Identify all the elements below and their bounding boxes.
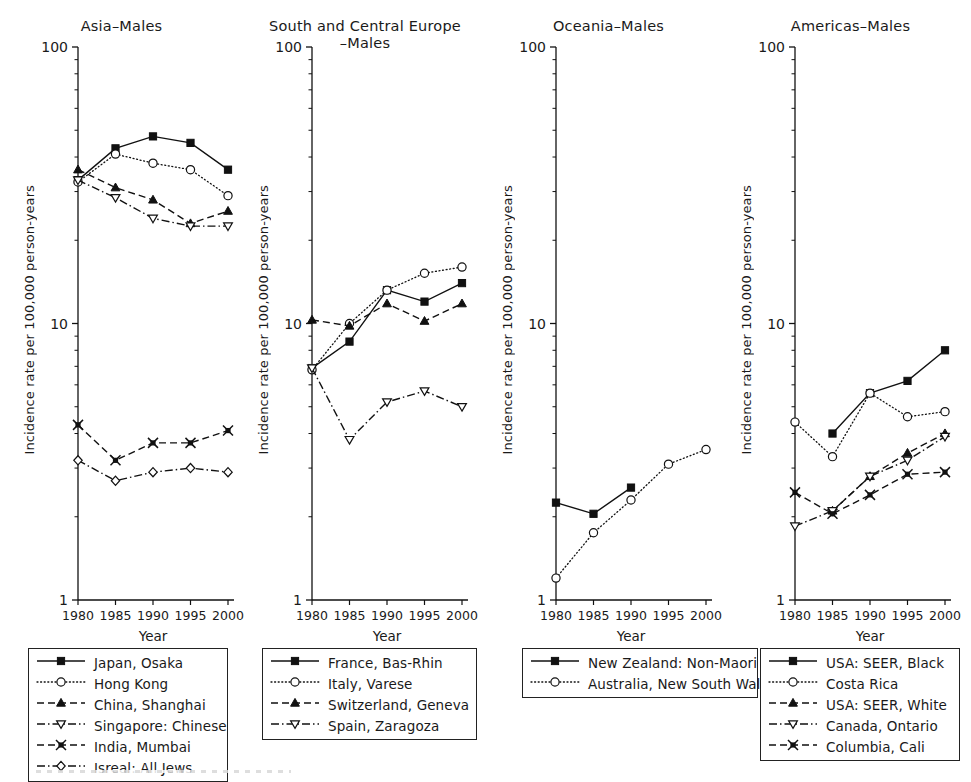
data-point-marker <box>865 490 875 500</box>
legend-label: USA: SEER, Black <box>826 655 944 671</box>
legend-key-sample <box>767 695 819 711</box>
data-point-marker <box>664 460 672 468</box>
y-tick-label: 10 <box>50 316 68 332</box>
data-point-marker <box>111 195 120 203</box>
x-tick-label: 1985 <box>817 608 849 623</box>
legend-label: France, Bas-Rhin <box>328 655 443 671</box>
x-tick-label: 1980 <box>779 608 811 623</box>
series-line <box>833 434 946 511</box>
x-tick-label: 1985 <box>100 608 132 623</box>
legend-item[interactable]: Japan, Osaka <box>29 652 227 673</box>
legend-item[interactable]: Australia, New South Wales <box>523 673 757 694</box>
series-line <box>795 393 945 457</box>
legend-marker-icon <box>35 674 87 694</box>
data-point-marker <box>791 418 799 426</box>
legend-marker-icon <box>35 695 87 715</box>
x-tick-label: 1980 <box>296 608 328 623</box>
legend-item[interactable]: Costa Rica <box>761 673 959 694</box>
data-point-marker <box>941 347 948 354</box>
plot-area: 11010019801985199019952000 <box>487 0 730 650</box>
data-point-marker <box>345 436 354 444</box>
data-point-marker <box>291 677 299 685</box>
data-point-marker <box>291 657 298 664</box>
legend-item[interactable]: Switzerland, Geneva <box>263 694 476 715</box>
x-tick-label: 1995 <box>653 608 685 623</box>
legend-key-sample <box>35 674 87 690</box>
data-point-marker <box>149 215 158 223</box>
legend-item[interactable]: France, Bas-Rhin <box>263 652 476 673</box>
legend-label: India, Mumbai <box>94 739 191 755</box>
data-point-marker <box>458 404 467 412</box>
legend-item[interactable]: Canada, Ontario <box>761 715 959 736</box>
legend-marker-icon <box>767 695 819 715</box>
legend-item[interactable]: New Zealand: Non-Maori <box>523 652 757 673</box>
legend-label: Costa Rica <box>826 676 898 692</box>
x-tick-label: 2000 <box>929 608 961 623</box>
legend-item[interactable]: USA: SEER, Black <box>761 652 959 673</box>
legend-marker-icon <box>529 674 581 694</box>
legend-item[interactable]: Italy, Varese <box>263 673 476 694</box>
legend-panel-2: France, Bas-RhinItaly, VareseSwitzerland… <box>262 648 477 740</box>
data-point-marker <box>308 315 317 323</box>
data-point-marker <box>551 657 558 664</box>
legend-item[interactable]: Hong Kong <box>29 673 227 694</box>
data-point-marker <box>791 523 800 531</box>
scan-artifact <box>36 770 291 773</box>
legend-key-sample <box>767 653 819 669</box>
legend-key-sample <box>767 716 819 732</box>
data-point-marker <box>149 468 157 477</box>
data-point-marker <box>903 469 913 479</box>
data-point-marker <box>589 529 597 537</box>
legend-marker-icon <box>767 737 819 757</box>
data-point-marker <box>829 430 836 437</box>
legend-item[interactable]: Singapore: Chinese <box>29 715 227 736</box>
series-line <box>312 283 462 368</box>
data-point-marker <box>903 413 911 421</box>
data-point-marker <box>149 133 156 140</box>
y-tick-label: 100 <box>41 39 68 55</box>
y-tick-label: 100 <box>758 39 785 55</box>
legend-item[interactable]: Columbia, Cali <box>761 736 959 757</box>
legend-key-sample <box>35 716 87 732</box>
data-point-marker <box>789 657 796 664</box>
legend-marker-icon <box>767 674 819 694</box>
legend-key-sample <box>35 737 87 753</box>
legend-label: Canada, Ontario <box>826 718 938 734</box>
legend-key-sample <box>529 674 581 690</box>
legend-item[interactable]: USA: SEER, White <box>761 694 959 715</box>
data-point-marker <box>383 299 392 307</box>
y-tick-label: 1 <box>776 592 785 608</box>
x-tick-label: 2000 <box>690 608 722 623</box>
y-tick-label: 1 <box>537 592 546 608</box>
y-tick-label: 10 <box>528 316 546 332</box>
data-point-marker <box>702 445 710 453</box>
legend-key-sample <box>35 653 87 669</box>
y-tick-label: 10 <box>767 316 785 332</box>
data-point-marker <box>903 448 912 456</box>
legend-label: Spain, Zaragoza <box>328 718 439 734</box>
y-tick-label: 10 <box>284 316 302 332</box>
data-point-marker <box>383 286 391 294</box>
legend-key-sample <box>269 653 321 669</box>
data-point-marker <box>458 279 465 286</box>
legend-marker-icon <box>269 674 321 694</box>
legend-item[interactable]: India, Mumbai <box>29 736 227 757</box>
legend-item[interactable]: Spain, Zaragoza <box>263 715 476 736</box>
legend-item[interactable]: Isreal: All Jews <box>29 757 227 778</box>
legend-key-sample <box>35 695 87 711</box>
x-tick-label: 2000 <box>212 608 244 623</box>
legend-key-sample <box>767 674 819 690</box>
x-tick-label: 1990 <box>854 608 886 623</box>
data-point-marker <box>148 438 158 448</box>
series-line <box>833 350 946 433</box>
data-point-marker <box>111 455 121 465</box>
data-point-marker <box>111 150 119 158</box>
data-point-marker <box>552 574 560 582</box>
data-point-marker <box>224 468 232 477</box>
x-tick-label: 1980 <box>62 608 94 623</box>
legend-item[interactable]: China, Shanghai <box>29 694 227 715</box>
x-tick-label: 2000 <box>446 608 478 623</box>
data-point-marker <box>186 463 194 472</box>
x-tick-label: 1995 <box>892 608 924 623</box>
